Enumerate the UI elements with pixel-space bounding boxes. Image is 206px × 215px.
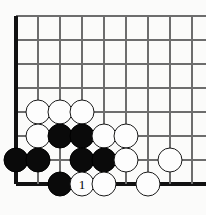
board-line-vertical-8 xyxy=(191,16,192,184)
board-line-horizontal-4 xyxy=(16,111,206,112)
board-line-horizontal-3 xyxy=(16,87,206,88)
board-grid xyxy=(0,0,206,215)
bottom-board-edge xyxy=(16,182,206,185)
board-line-horizontal-1 xyxy=(16,39,206,40)
left-board-edge xyxy=(14,16,17,184)
go-board-diagram: 1 xyxy=(0,0,206,215)
board-line-vertical-1 xyxy=(37,16,38,184)
board-line-horizontal-2 xyxy=(16,63,206,64)
board-line-vertical-2 xyxy=(59,16,60,184)
board-line-vertical-4 xyxy=(103,16,104,184)
board-line-vertical-7 xyxy=(169,16,170,184)
board-line-vertical-6 xyxy=(147,16,148,184)
board-line-horizontal-5 xyxy=(16,135,206,136)
board-line-vertical-5 xyxy=(125,16,126,184)
board-line-horizontal-6 xyxy=(16,159,206,160)
board-line-vertical-3 xyxy=(81,16,82,184)
board-line-horizontal-0 xyxy=(16,15,206,16)
